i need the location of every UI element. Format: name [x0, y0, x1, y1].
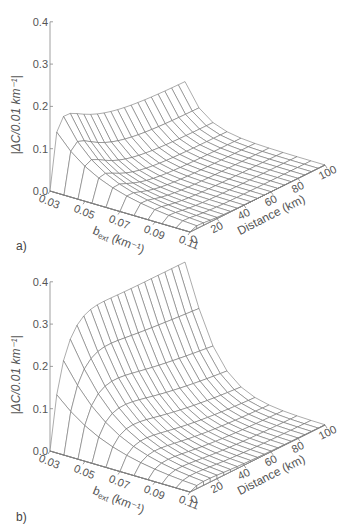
b-tick-label: 0.09: [142, 482, 166, 501]
z-tick-label: 0.3: [33, 318, 48, 330]
z-tick-label: 0.2: [33, 100, 48, 112]
b-tick-label: 0.05: [72, 202, 96, 221]
surface-plot-a: 0.00.10.20.30.40.030.050.070.090.1102040…: [0, 0, 360, 263]
surface-plot-b-canvas: 0.00.10.20.30.40.030.050.070.090.1102040…: [0, 260, 360, 523]
b-tick-label: 0.03: [37, 192, 61, 211]
surface-plot-a-canvas: 0.00.10.20.30.40.030.050.070.090.1102040…: [0, 0, 360, 263]
b-axis-title: bext(km⁻¹): [91, 483, 147, 517]
b-tick-label: 0.05: [72, 462, 96, 481]
z-tick-label: 0.4: [33, 16, 48, 28]
z-tick-label: 0.1: [33, 143, 48, 155]
surface-mesh: [50, 262, 325, 492]
panel-label-b: b): [16, 510, 27, 524]
z-axis-title: |ΔC/0.01 km⁻¹|: [9, 335, 23, 414]
surface-group: 0.00.10.20.30.40.030.050.070.090.1102040…: [9, 16, 338, 258]
panel-label-a: a): [16, 239, 27, 253]
z-tick-label: 0.2: [33, 360, 48, 372]
z-tick-label: 0.4: [33, 276, 48, 288]
z-axis-title: |ΔC/0.01 km⁻¹|: [9, 75, 23, 154]
surface-group: 0.00.10.20.30.40.030.050.070.090.1102040…: [9, 262, 338, 517]
z-tick-label: 0.3: [33, 58, 48, 70]
b-tick-label: 0.07: [107, 212, 131, 231]
b-tick-label: 0.07: [107, 472, 131, 491]
b-axis-title: bext(km⁻¹): [91, 223, 147, 257]
surface-plot-b: 0.00.10.20.30.40.030.050.070.090.1102040…: [0, 260, 360, 523]
z-tick-label: 0.1: [33, 403, 48, 415]
b-tick-label: 0.03: [37, 452, 61, 471]
b-tick-label: 0.09: [142, 222, 166, 241]
